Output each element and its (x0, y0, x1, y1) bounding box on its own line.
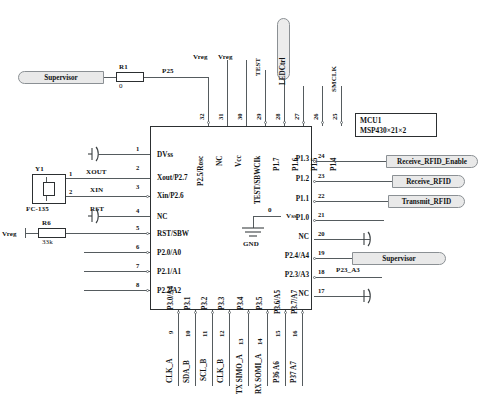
pinnum-4: 4 (136, 207, 139, 214)
pinname-4: NC (157, 213, 167, 221)
pin13-marker (247, 311, 250, 314)
wire-pin19 (316, 258, 352, 259)
wire-pin29-test (265, 70, 266, 115)
wire-pin27-stub (303, 86, 304, 115)
netflag-supervisor-right[interactable]: Supervisor (352, 252, 446, 265)
pinnum-12: 12 (218, 330, 225, 337)
wire-pin10 (195, 310, 196, 386)
gnd-label: GND (243, 240, 259, 248)
pin28-marker (283, 121, 286, 124)
pinnum-2: 2 (136, 164, 139, 171)
pinname-29: TEST/SBWCIk (254, 156, 262, 204)
pinname-18: P2.3/A3 (280, 271, 309, 279)
pinnum-10: 10 (184, 330, 191, 337)
pinname-23: P1.2 (291, 175, 309, 183)
title-block-ref: MCU1 (360, 116, 432, 126)
pinnum-6: 6 (136, 243, 139, 250)
resistor-r6[interactable] (38, 228, 66, 238)
pinname-6: P2.0/A0 (157, 249, 181, 257)
netname-14: RX SOMI_A (255, 354, 263, 394)
wire-pin23 (316, 181, 392, 182)
pinname-12: P3.3 (218, 297, 226, 310)
pin6-marker (146, 251, 149, 254)
pinnum-1: 1 (136, 145, 139, 152)
title-block: MCU1 MSP430×21×2 (355, 113, 437, 137)
pinnum-18: 18 (318, 268, 325, 275)
pin5-marker (146, 232, 149, 235)
wire-r6-to-rst (66, 233, 150, 234)
netflag-transmit-rfid[interactable]: Transmit_RFID (388, 195, 465, 208)
crystal-lead-bottom (46, 196, 47, 201)
pinname-20: NC (289, 233, 309, 241)
wire-pin31-vreg (227, 60, 228, 115)
pinname-31: NC (216, 156, 224, 166)
netflag-ledctrl[interactable]: LEDCtrl (277, 18, 290, 80)
netname-10: SDA_B (183, 360, 191, 383)
pinnum-22: 22 (318, 192, 325, 199)
pinnum-30: 30 (236, 113, 243, 120)
pin7-marker (146, 270, 149, 273)
pinnum-15: 15 (274, 330, 281, 337)
wire-pin22 (316, 201, 388, 202)
pinname-2: Xout/P2.7 (157, 174, 188, 182)
wire-pin12 (229, 310, 230, 386)
pinname-22: P1.1 (291, 195, 309, 203)
pinnum-21: 21 (318, 211, 325, 218)
wire-pin21 (316, 220, 384, 221)
pinnum-28: 28 (274, 113, 281, 120)
pinname-11: P3.2 (201, 297, 209, 310)
netflag-supervisor-top[interactable]: Supervisor (18, 71, 104, 84)
pin16-marker (301, 311, 304, 314)
crystal-lead-top (46, 177, 47, 182)
pinnum-5: 5 (136, 224, 139, 231)
net-label-test: TEST (254, 58, 262, 76)
netname-12: CLK_B (217, 359, 225, 383)
pin12-marker (228, 311, 231, 314)
wire-pin4-nc (98, 216, 150, 217)
pinname-3: Xin/P2.6 (157, 192, 184, 200)
lead-pin30 (246, 115, 247, 126)
resistor-r1[interactable] (116, 72, 144, 82)
pin9-marker (177, 311, 180, 314)
y1-ref-label: Y1 (35, 165, 44, 173)
r1-ref-label: R1 (119, 63, 128, 71)
title-block-part: MSP430×21×2 (360, 126, 432, 136)
crystal-y1-element (43, 182, 55, 196)
net-label-xout: XOUT (86, 168, 107, 176)
pinname-7: P2.1/A1 (157, 268, 181, 276)
pinnum-7: 7 (136, 262, 139, 269)
wire-pin13 (248, 310, 249, 386)
gnd-value-label: 0 (268, 206, 272, 214)
pinname-30: Vcc (235, 155, 243, 167)
net-label-p23-a3: P23_A3 (336, 266, 360, 274)
pin27-marker (302, 121, 305, 124)
wire-dvss (98, 154, 150, 155)
pin15-marker (284, 311, 287, 314)
wire-pin26-stub (322, 86, 323, 115)
netflag-receive-rfid[interactable]: Receive_RFID (392, 175, 465, 188)
wire-pin6-stub (84, 252, 150, 253)
wire-xin (66, 196, 150, 197)
net-label-p25: P25 (162, 67, 174, 75)
pinnum-14: 14 (256, 338, 263, 345)
pin29-marker (264, 121, 267, 124)
pinnum-32: 32 (198, 113, 205, 120)
wire-pin16 (302, 310, 303, 386)
wire-pin15 (285, 310, 286, 386)
pinnum-23: 23 (318, 172, 325, 179)
net-label-xin: XIN (90, 186, 103, 194)
netflag-receive-rfid-enable[interactable]: Receive_RFID_Enable (386, 155, 478, 168)
capacitor-pin17-symbol (356, 288, 378, 304)
wire-xout (66, 178, 150, 179)
net-label-rst: RST (90, 205, 104, 213)
pin32-marker (207, 121, 210, 124)
pinname-21: P1.0 (291, 214, 309, 222)
net-label-smclk: SMCLK (330, 66, 338, 92)
wire-pin18 (316, 277, 382, 278)
pinnum-9: 9 (167, 331, 174, 334)
r6-ref-label: R6 (42, 219, 51, 227)
pinnum-3: 3 (136, 183, 139, 190)
netname-15: P36 A6 (273, 361, 281, 383)
pin3-marker (146, 195, 149, 198)
net-label-vreg-pin30: Vreg (218, 53, 233, 61)
